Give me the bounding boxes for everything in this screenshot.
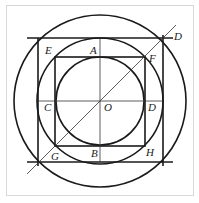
label-G: G xyxy=(51,150,59,162)
label-D-mid: D xyxy=(147,101,156,113)
geometry-diagram: E A F D C O D G B H xyxy=(0,0,199,203)
label-C: C xyxy=(44,101,52,113)
label-F: F xyxy=(148,52,156,64)
label-O: O xyxy=(104,101,112,113)
label-E: E xyxy=(44,44,52,56)
label-D-top: D xyxy=(173,30,182,42)
label-H: H xyxy=(145,146,155,158)
label-A: A xyxy=(89,44,97,56)
label-B: B xyxy=(91,147,98,159)
